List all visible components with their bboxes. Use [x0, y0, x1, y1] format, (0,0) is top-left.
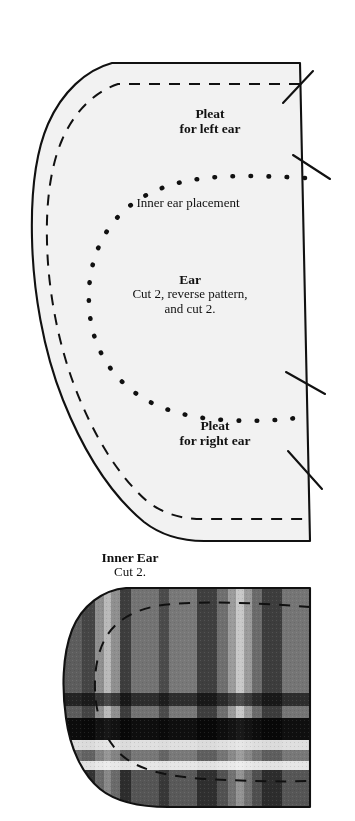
label-pleat-left: Pleat for left ear: [145, 106, 275, 136]
ear-title: Ear: [100, 272, 280, 287]
pleat-right-line1: Pleat: [150, 418, 280, 433]
pleat-left-line1: Pleat: [145, 106, 275, 121]
pattern-sheet: Pleat for left ear Inner ear placement E…: [0, 0, 355, 821]
inner-ear-instruction: Cut 2.: [55, 565, 205, 580]
inner-ear-placement-text: Inner ear placement: [98, 196, 278, 211]
inner-ear-fabric: [55, 585, 320, 811]
inner-ear-piece: [55, 585, 320, 811]
ear-instruction-line2: and cut 2.: [100, 302, 280, 317]
label-inner-ear-block: Inner Ear Cut 2.: [55, 550, 205, 580]
label-inner-ear-placement: Inner ear placement: [98, 196, 278, 211]
pleat-right-line2: for right ear: [150, 433, 280, 448]
ear-instruction-line1: Cut 2, reverse pattern,: [100, 287, 280, 302]
pleat-left-line2: for left ear: [145, 121, 275, 136]
label-pleat-right: Pleat for right ear: [150, 418, 280, 448]
label-ear-block: Ear Cut 2, reverse pattern, and cut 2.: [100, 272, 280, 316]
inner-ear-title: Inner Ear: [55, 550, 205, 565]
